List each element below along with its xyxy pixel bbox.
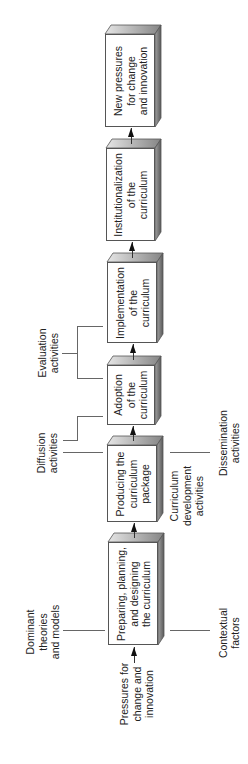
label-line: package (138, 451, 151, 516)
label-line: curriculum (137, 153, 150, 236)
evaluation-bracket-stem (62, 353, 77, 354)
label-line: curriculum (138, 267, 151, 339)
label-line: curriculum (126, 451, 139, 516)
annotation-curriculum-development: Curriculum development activities (167, 465, 207, 527)
label-line: Pressures for (118, 663, 131, 725)
label-line: curriculum (137, 371, 150, 419)
label-line: and models (49, 605, 62, 659)
dissemination-connector (170, 452, 210, 453)
stage-label-new-pressures: New pressures for change and innovation (108, 35, 152, 128)
label-line: activities (193, 466, 206, 526)
annotation-diffusion: Diffusion activities (34, 428, 60, 478)
label-line: for change (124, 46, 137, 116)
label-line: Diffusion (35, 433, 48, 474)
label-line: Dissemination (217, 410, 230, 476)
diffusion-connector (63, 452, 103, 453)
label-line: New pressures (111, 46, 124, 116)
label-line: Contextual (217, 608, 230, 658)
label-line: innovation (143, 663, 156, 725)
evaluation-bracket-arm (77, 326, 103, 327)
label-line: development (181, 466, 194, 526)
label-line: Adoption (112, 371, 125, 419)
diffusion-bracket-spine (77, 416, 78, 441)
stage-label-adoption: Adoption of the curriculum (109, 365, 153, 425)
curriculum-process-diagram: New pressures for change and innovation … (0, 0, 248, 764)
label-line: activities (229, 410, 242, 476)
label-line: of the (125, 371, 138, 419)
annotation-dissemination: Dissemination activities (216, 410, 242, 476)
label-line: Producing the (113, 451, 126, 516)
diffusion-bracket-stem (63, 440, 77, 441)
label-line: Evaluation (35, 328, 48, 377)
annotation-contextual-factors: Contextual factors (216, 606, 242, 660)
label-line: Dominant (24, 605, 37, 659)
label-line: the curriculum (139, 547, 152, 641)
label-line: and designing (127, 547, 140, 641)
label-line: Implementation (113, 267, 126, 339)
label-line: of the (124, 153, 137, 236)
label-line: of the (126, 267, 139, 339)
stage-label-producing: Producing the curriculum package (110, 445, 154, 522)
label-line: change and (130, 663, 143, 725)
label-line: factors (229, 608, 242, 658)
evaluation-bracket-spine (77, 326, 78, 379)
label-line: activities (48, 328, 61, 377)
label-line: theories (37, 605, 50, 659)
label-line: activities (47, 433, 60, 474)
stage-label-preparing: Preparing, planning, and designing the c… (111, 542, 155, 645)
label-line: Preparing, planning, (114, 547, 127, 641)
label-line: and innovation (136, 46, 149, 116)
stage-label-institutionalization: Institutionalization of the curriculum (109, 148, 153, 241)
annotation-dominant-theories: Dominant theories and models (23, 601, 63, 663)
evaluation-bracket-arm (77, 378, 103, 379)
stage-label-implementation: Implementation of the curriculum (110, 262, 154, 343)
label-line: Institutionalization (112, 153, 125, 236)
dominant-theories-connector (63, 630, 105, 631)
label-line: Curriculum (168, 466, 181, 526)
contextual-connector (170, 630, 210, 631)
annotation-pressures-for-change: Pressures for change and innovation (117, 661, 157, 727)
diffusion-bracket-arm (77, 416, 103, 417)
annotation-evaluation: Evaluation activities (35, 324, 61, 382)
